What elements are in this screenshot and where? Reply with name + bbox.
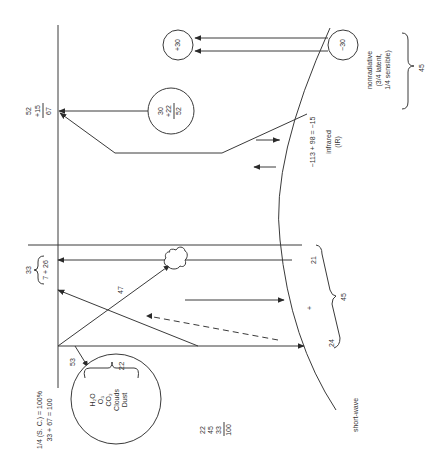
surface-diffuse-21: 21 <box>310 256 317 264</box>
earth-energy-balance-diagram: 22 H₂O O₃ CO₂ Clouds Dust 1/4 (S. C.) = … <box>0 0 442 469</box>
svg-text:52: 52 <box>175 107 182 115</box>
surface-direct-24: 24 <box>328 339 335 347</box>
sum-column: 22 45 33 100 <box>199 422 232 436</box>
absorbed-53-arrow <box>75 346 88 367</box>
absorbed-53-label: 53 <box>69 358 76 366</box>
formula-line-1: 1/4 (S. C.) = 100% <box>36 391 44 449</box>
svg-text:Clouds: Clouds <box>113 389 120 411</box>
nonradiative-brace <box>402 33 414 109</box>
svg-text:−30: −30 <box>339 39 346 51</box>
nonradiative-total-45: 45 <box>418 64 425 72</box>
cloud-icon <box>164 247 187 269</box>
reflected-7-arrow <box>58 290 198 346</box>
surface-plus: + <box>306 306 313 310</box>
ir-equation: −113 + 98 = −15 <box>309 116 316 167</box>
svg-text:45: 45 <box>207 426 214 434</box>
to-cloud-47-arrow <box>58 265 170 346</box>
reflected-split-7-26: 7 + 26 <box>42 260 49 280</box>
surface-total-45: 45 <box>340 293 347 301</box>
surface-brace <box>316 245 340 348</box>
svg-text:100: 100 <box>225 424 232 436</box>
svg-text:+22: +22 <box>165 105 172 117</box>
svg-text:H₂O: H₂O <box>89 393 96 407</box>
svg-text:Dust: Dust <box>121 393 128 407</box>
svg-text:+30: +30 <box>174 39 181 51</box>
infrared-label: infrared <box>325 130 332 154</box>
cloud-path-47-label: 47 <box>117 286 124 294</box>
constituents-total: 22 <box>117 361 126 370</box>
diffuse-arrowhead <box>146 313 152 319</box>
nonradiative-sensible: 1/4 sensible) <box>384 50 392 90</box>
short-wave-label: short-wave <box>352 398 359 432</box>
svg-text:30: 30 <box>157 107 164 115</box>
formula-line-2: 33 + 67 = 100 <box>46 398 53 441</box>
earth-surface-curve <box>279 28 336 410</box>
outgoing-line-3: 67 <box>45 107 52 115</box>
svg-text:O₃: O₃ <box>97 396 104 404</box>
svg-text:22: 22 <box>199 426 206 434</box>
outgoing-line-1: 52 <box>25 107 32 115</box>
ir-abbrev-label: (IR) <box>334 136 342 148</box>
nonradiative-label: nonradiative <box>366 51 373 89</box>
svg-text:CO₂: CO₂ <box>105 393 112 407</box>
diffuse-dashed-line <box>148 316 278 340</box>
svg-text:33: 33 <box>215 426 222 434</box>
nonradiative-latent: (3/4 latent, <box>375 53 383 86</box>
reflected-total-33: 33 <box>25 266 32 274</box>
outgoing-line-2: +15 <box>34 105 41 117</box>
svg-text:22: 22 <box>117 361 126 370</box>
